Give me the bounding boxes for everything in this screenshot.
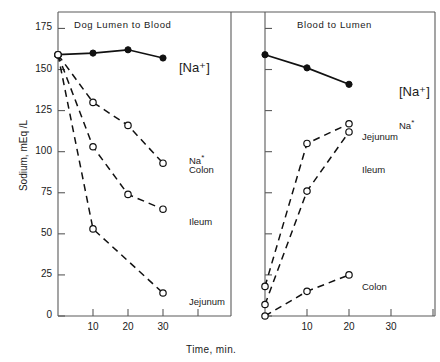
open-circle-marker [160,206,166,212]
x-tick-label: 10 [293,321,321,332]
filled-circle-marker [160,55,166,61]
data-layer [55,47,352,320]
open-circle-marker [346,272,352,278]
x-tick-label: 10 [79,321,107,332]
filled-circle-marker [262,52,268,58]
x-tick-label: 30 [377,321,405,332]
label-na-star-right: Na* [399,117,414,131]
x-axis-label: Time, min. [186,344,236,355]
open-circle-marker [125,191,131,197]
open-circle-marker [304,140,310,146]
y-tick-label: 150 [8,63,52,74]
y-tick-label: 125 [8,104,52,115]
open-circle-marker [346,121,352,127]
label-jejunum-left: Jejunum [189,296,225,307]
series-line-na-jejunum [58,55,163,293]
panel-title-lumen-to-blood: Dog Lumen to Blood [74,19,171,30]
panel-title-blood-to-lumen: Blood to Lumen [297,19,372,30]
open-circle-marker [125,122,131,128]
open-circle-marker [55,52,61,58]
label-ileum-left: Ileum [189,216,212,227]
series-line-na-ileum [265,132,349,305]
label-ileum-right: Ileum [362,164,385,175]
y-tick-label: 50 [8,227,52,238]
y-tick-label: 0 [8,309,52,320]
series-line-na [58,50,163,58]
series-line-na-colon [58,55,163,163]
y-axis-label: Sodium, mEq /L [18,106,29,206]
y-tick-label: 100 [8,145,52,156]
sodium-transfer-figure: 1751501251007550250 101020203030 Sodium,… [0,0,440,362]
open-circle-marker [160,290,166,296]
open-circle-marker [346,129,352,135]
open-circle-marker [90,144,96,150]
asterisk-icon: * [201,153,204,162]
open-circle-marker [90,99,96,105]
filled-circle-marker [304,65,310,71]
label-na-bracket-right: [Na⁺] [399,86,430,97]
series-line-na-jejunum [265,124,349,287]
label-colon-left: Colon [189,164,214,175]
open-circle-marker [262,313,268,319]
filled-circle-marker [125,47,131,53]
open-circle-marker [262,301,268,307]
y-tick-label: 175 [8,21,52,32]
open-circle-marker [262,283,268,289]
x-tick-label: 30 [149,321,177,332]
open-circle-marker [304,288,310,294]
label-na-bracket-left: [Na⁺] [179,62,210,73]
y-tick-label: 75 [8,186,52,197]
label-jejunum-right: Jejunum [362,131,398,142]
label-colon-right: Colon [362,281,387,292]
open-circle-marker [304,188,310,194]
open-circle-marker [90,226,96,232]
na-text: Na [399,120,411,131]
y-tick-label: 25 [8,268,52,279]
x-tick-label: 20 [114,321,142,332]
filled-circle-marker [90,50,96,56]
plot-canvas [0,0,440,362]
filled-circle-marker [346,81,352,87]
x-tick-label: 20 [335,321,363,332]
open-circle-marker [160,160,166,166]
asterisk-icon: * [411,118,414,127]
